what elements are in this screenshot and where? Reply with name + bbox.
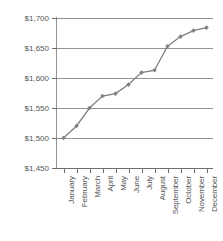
x-axis-tick-label: October: [184, 176, 193, 204]
series-line: [64, 28, 207, 138]
data-point-marker: [191, 28, 196, 33]
x-axis-tick: [194, 169, 195, 173]
data-point-marker: [204, 25, 209, 30]
x-axis-tick: [90, 169, 91, 173]
x-axis-tick: [103, 169, 104, 173]
x-axis-tick-label: May: [119, 176, 128, 191]
x-axis-tick: [142, 169, 143, 173]
x-axis-tick: [155, 169, 156, 173]
data-series-layer: [0, 0, 223, 241]
x-axis-tick-label: March: [93, 176, 102, 198]
x-axis-tick-label: July: [145, 176, 154, 190]
x-axis-tick: [77, 169, 78, 173]
y-axis-tick: [52, 48, 57, 49]
x-axis-tick-label: June: [132, 176, 141, 193]
x-axis-tick: [207, 169, 208, 173]
line-chart: $1,450$1,500$1,550$1,600$1,650$1,700 Jan…: [0, 0, 223, 241]
x-axis-tick: [116, 169, 117, 173]
x-axis-tick: [129, 169, 130, 173]
y-axis-tick: [52, 108, 57, 109]
x-axis-tick-label: December: [210, 176, 219, 212]
y-axis-tick: [52, 168, 57, 169]
x-axis-tick: [64, 169, 65, 173]
x-axis-tick-label: November: [197, 176, 206, 212]
x-axis-tick-label: August: [158, 176, 167, 200]
y-axis-tick: [52, 138, 57, 139]
y-axis-tick: [52, 78, 57, 79]
x-axis-tick-label: February: [80, 176, 89, 207]
x-axis-tick-label: January: [67, 176, 76, 204]
x-axis-tick-label: April: [106, 176, 115, 192]
x-axis-tick: [168, 169, 169, 173]
x-axis-tick-label: September: [171, 176, 180, 214]
series-markers: [61, 25, 209, 140]
y-axis-tick: [52, 18, 57, 19]
x-axis-tick: [181, 169, 182, 173]
